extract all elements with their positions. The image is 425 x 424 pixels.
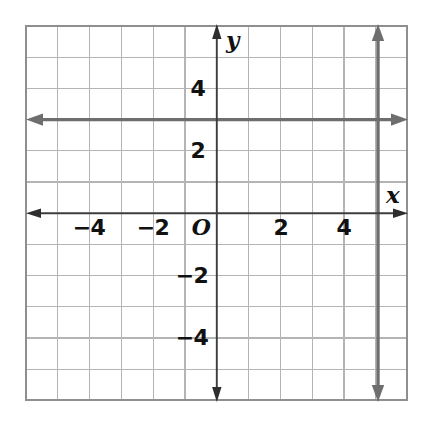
y-tick-label-2: 2 [191, 140, 206, 162]
x-axis-letter: x [386, 183, 400, 206]
x-tick-label-minus2: −2 [137, 217, 170, 239]
x-tick-label-2: 2 [274, 217, 289, 239]
y-axis-letter: y [226, 28, 239, 51]
origin-label: O [192, 216, 211, 238]
y-tick-label-minus4: −4 [176, 327, 209, 349]
x-tick-label-minus4: −4 [73, 217, 106, 239]
y-tick-label-minus2: −2 [176, 265, 209, 287]
coordinate-plane-canvas [0, 0, 425, 424]
x-tick-label-4: 4 [337, 217, 352, 239]
y-tick-label-4: 4 [191, 78, 206, 100]
coordinate-plane-figure: y x −4 −2 O 2 4 4 2 −2 −4 [0, 0, 425, 424]
